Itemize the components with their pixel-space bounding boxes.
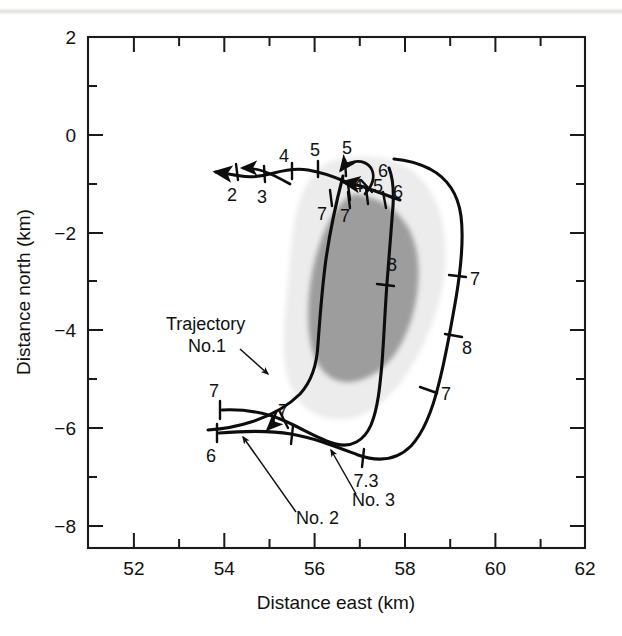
hour-label-no3-7: 7	[209, 381, 219, 401]
annotation-trajectory-no3: No. 3	[352, 490, 395, 510]
x-tick-label-5: 62	[574, 558, 595, 579]
hour-label-no1-4: 4	[279, 146, 289, 166]
hour-label-no2-8: 8	[462, 338, 472, 358]
x-tick-label-2: 56	[304, 558, 325, 579]
hour-label-no1-2: 2	[227, 185, 237, 205]
y-tick-label-4: −6	[54, 418, 76, 439]
x-tick-label-0: 52	[123, 558, 144, 579]
hour-label-no2-7-3: 7.3	[353, 471, 378, 491]
x-tick-label-4: 60	[485, 558, 506, 579]
y-tick-label-3: −4	[54, 320, 76, 341]
hour-label-no2-7c: 7	[470, 269, 480, 289]
y-tick-label-0: 2	[65, 27, 76, 48]
hour-label-no1-3: 3	[257, 187, 267, 207]
y-tick-label-2: −2	[54, 223, 76, 244]
trajectory-figure: 2 3 4 5 5 6 4 5 6 7 7 8 7 8 7 7.3 7 7 6 …	[0, 0, 622, 636]
annotation-trajectory-no1-line2: No.1	[188, 336, 226, 356]
hour-label-no1-7b: 7	[340, 206, 350, 226]
y-tick-label-1: 0	[65, 125, 76, 146]
x-axis-title: Distance east (km)	[257, 592, 415, 613]
hour-tick-no1-5b	[345, 160, 346, 176]
hour-label-no2-7: 7	[278, 401, 288, 421]
annotation-trajectory-no2: No. 2	[296, 508, 339, 528]
hour-label-no1-7a: 7	[317, 204, 327, 224]
hour-tick-no1-3	[264, 166, 265, 182]
trajectory-plot-svg: 2 3 4 5 5 6 4 5 6 7 7 8 7 8 7 7.3 7 7 6 …	[0, 0, 622, 636]
annotation-trajectory-no1-line1: Trajectory	[166, 314, 245, 334]
x-tick-label-3: 58	[394, 558, 415, 579]
x-tick-label-1: 54	[214, 558, 236, 579]
hour-label-no3-8: 8	[387, 255, 397, 275]
hour-label-no2-6: 6	[206, 446, 216, 466]
hour-label-no1-4c: 4	[353, 176, 363, 196]
hour-label-no1-6c: 6	[393, 182, 403, 202]
hour-label-no1-5c: 5	[373, 176, 383, 196]
y-tick-label-5: −8	[54, 516, 76, 537]
hour-label-no2-7b: 7	[441, 384, 451, 404]
y-axis-title: Distance north (km)	[13, 209, 34, 375]
hour-label-no1-5: 5	[310, 140, 320, 160]
hour-label-no1-5b: 5	[342, 138, 352, 158]
